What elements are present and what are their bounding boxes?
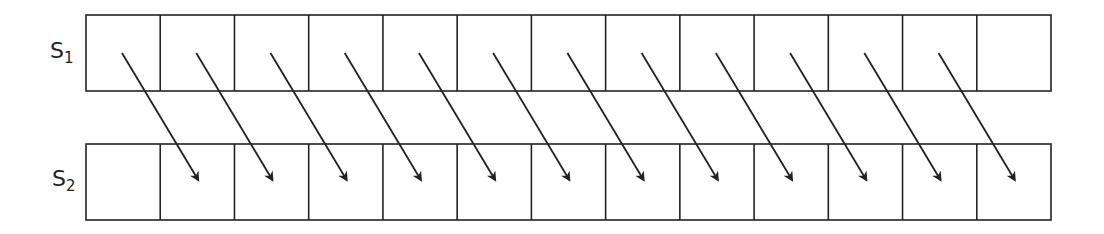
shift-diagram xyxy=(0,0,1104,234)
s1-cells xyxy=(86,15,1051,91)
s1-outline xyxy=(86,15,1051,91)
arrows xyxy=(122,53,1015,180)
s2-cells xyxy=(86,144,1051,220)
s2-outline xyxy=(86,144,1051,220)
